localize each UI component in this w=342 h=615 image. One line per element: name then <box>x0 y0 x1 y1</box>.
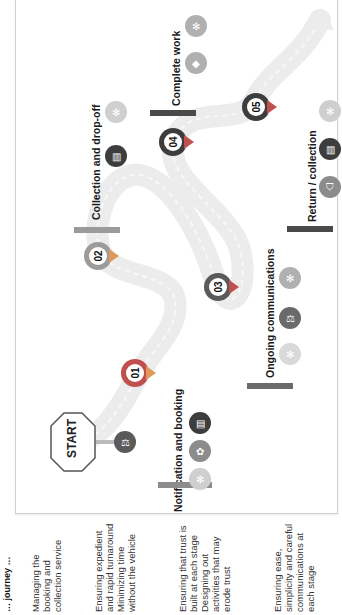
shield-icon: ⛉ <box>319 176 341 198</box>
people-icon: ✻ <box>279 343 301 365</box>
people-icon: ✻ <box>319 100 341 122</box>
pin-02[interactable]: 02 <box>83 241 113 271</box>
car-icon: ◆ <box>185 52 207 74</box>
pin-number: 04 <box>164 133 182 151</box>
pin-05[interactable]: 05 <box>241 92 271 122</box>
handshake-icon: ✿ <box>189 440 211 462</box>
sign-board-icon: ▥ <box>105 145 127 167</box>
start-sign: START <box>50 412 96 472</box>
stage-label-return: Return / collection <box>306 130 318 222</box>
pin-03[interactable]: 03 <box>203 272 233 302</box>
sign-board-icon: ▥ <box>319 138 341 160</box>
people-icon: ✻ <box>189 468 211 490</box>
pin-04[interactable]: 04 <box>158 127 188 157</box>
handshake-icon: ⚖ <box>279 307 301 329</box>
pin-number: 03 <box>209 278 227 296</box>
stage-bar-complete <box>150 110 196 116</box>
start-label: START <box>65 419 79 458</box>
stage-label-collection: Collection and drop-off <box>90 105 102 221</box>
pin-number: 02 <box>89 247 107 265</box>
description-communications: Ensuring ease, simplicity and careful co… <box>272 520 316 612</box>
people-icon: ✻ <box>185 15 207 37</box>
handshake-icon: ⚖ <box>114 431 136 453</box>
pin-number: 01 <box>126 364 144 382</box>
stage-bar-return <box>287 226 333 232</box>
stage-label-ongoing: Ongoing communications <box>264 248 276 378</box>
description-trust: Ensuring that trust is built at each sta… <box>177 520 232 612</box>
description-turnaround: Ensuring expedient and rapid turnaround … <box>93 520 137 612</box>
stage-label-notification: Notification and booking <box>172 389 184 512</box>
sign-pole <box>96 440 116 444</box>
pin-01[interactable]: 01 <box>120 358 150 388</box>
description-booking: Managing the booking and collection serv… <box>30 520 63 612</box>
pin-number: 05 <box>247 98 265 116</box>
calendar-board-icon: ▤ <box>189 412 211 434</box>
stage-bar-ongoing <box>247 383 293 389</box>
stage-bar-collection <box>74 227 120 233</box>
people-icon: ✻ <box>105 101 127 123</box>
people-icon: ✻ <box>279 267 301 289</box>
stage-label-complete: Complete work <box>170 31 182 106</box>
